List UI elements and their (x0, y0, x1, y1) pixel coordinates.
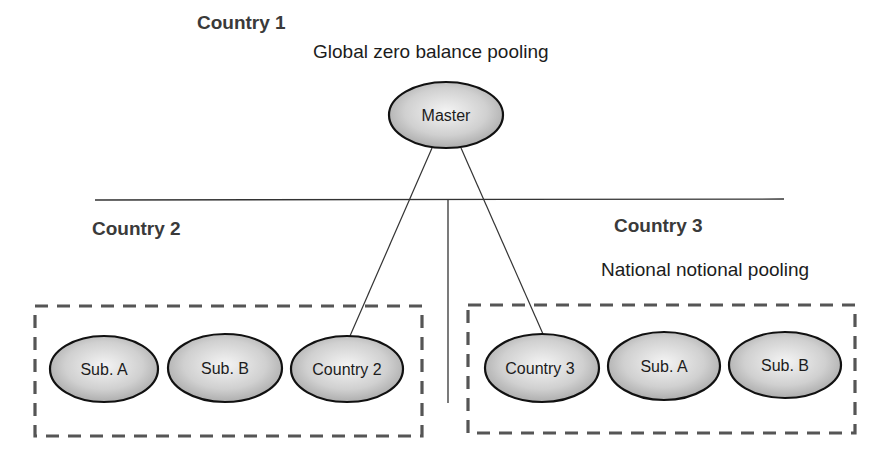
master-node: Master (389, 82, 503, 148)
country3-node-sub-a-label: Sub. A (640, 358, 687, 375)
country2-node-country2-label: Country 2 (312, 361, 381, 378)
country1-pooling-type: Global zero balance pooling (313, 41, 549, 63)
horizontal-divider (95, 199, 784, 200)
country3-node-sub-b: Sub. B (729, 332, 841, 398)
connector-master-country2 (350, 148, 432, 336)
country3-node-sub-a: Sub. A (608, 332, 720, 400)
country2-node-sub-b: Sub. B (168, 334, 282, 402)
country3-node-country3-label: Country 3 (505, 360, 574, 377)
country3-heading: Country 3 (614, 215, 703, 237)
master-node-label: Master (422, 107, 472, 124)
country2-node-sub-a-label: Sub. A (80, 361, 127, 378)
country1-heading: Country 1 (197, 12, 286, 34)
country2-node-sub-a: Sub. A (50, 336, 158, 402)
country3-node-country3: Country 3 (485, 334, 599, 402)
country3-pooling-type: National notional pooling (601, 259, 809, 281)
country2-node-sub-b-label: Sub. B (201, 360, 249, 377)
country2-node-country2: Country 2 (291, 336, 403, 402)
country3-node-sub-b-label: Sub. B (761, 357, 809, 374)
country2-heading: Country 2 (92, 218, 181, 240)
